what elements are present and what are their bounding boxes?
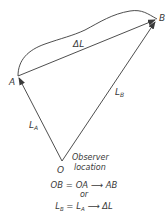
or-text: or — [80, 190, 89, 199]
delta-l-label: ΔL — [72, 39, 84, 49]
curved-path-a-to-b — [18, 11, 157, 76]
observer-label-line1: Observer — [72, 153, 109, 162]
vector-la — [19, 78, 62, 161]
equation-1: OB = OA ⟶ AB — [51, 180, 118, 190]
point-b-label: B — [159, 13, 165, 23]
point-a-label: A — [8, 77, 15, 87]
observer-label-line2: location — [74, 163, 106, 172]
vector-delta-l — [18, 20, 155, 76]
vector-diagram: A B O ΔL LB LA Observer location OB = OA… — [0, 0, 168, 214]
la-label: LA — [29, 120, 38, 131]
equation-2: LB = LA ⟶ ΔL — [55, 201, 113, 212]
point-o-label: O — [57, 165, 64, 175]
lb-label: LB — [115, 87, 124, 98]
